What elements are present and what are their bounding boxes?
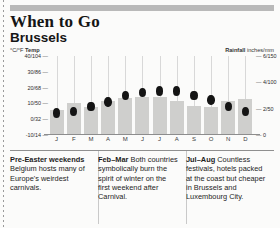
- month-label: D: [243, 136, 247, 142]
- temperature-marker: [173, 86, 180, 96]
- rainfall-bar: [135, 97, 149, 135]
- rainfall-tick-label: — 6/150: [256, 53, 276, 59]
- temperature-marker: [139, 88, 146, 98]
- month-label: J: [55, 136, 58, 142]
- temp-tick-label: 40/104 —: [8, 53, 48, 59]
- temp-tick-label: -10/14 —: [8, 132, 48, 138]
- rainfall-bar: [118, 98, 132, 135]
- article-page: When to Go Brussels °C/°F Temp Rainfall …: [0, 0, 280, 228]
- note-lead: Jul–Aug: [186, 155, 215, 164]
- month-label: M: [123, 136, 128, 142]
- month-label: A: [106, 136, 110, 142]
- margin-rule: [3, 0, 4, 228]
- temperature-marker: [190, 91, 197, 101]
- rainfall-label: Rainfall: [225, 47, 245, 53]
- note-block: Jul–Aug Countless festivals, hotels pack…: [186, 150, 274, 224]
- note-lead: Pre-Easter weekends: [10, 155, 84, 164]
- month-label: O: [209, 136, 214, 142]
- month-label: J: [158, 136, 161, 142]
- rainfall-bar: [153, 97, 167, 135]
- note-block: Feb–Mar Both countries symbolically burn…: [98, 150, 186, 224]
- top-banner-bar: [10, 5, 274, 11]
- rainfall-bar: [187, 106, 201, 135]
- month-label: M: [88, 136, 93, 142]
- temperature-marker: [87, 102, 94, 112]
- temperature-marker: [242, 107, 249, 117]
- month-label: F: [72, 136, 76, 142]
- chart-plot-area: [48, 56, 254, 135]
- temperature-marker: [156, 86, 163, 96]
- note-lead: Feb–Mar: [98, 155, 128, 164]
- temp-tick-label: 30/86 —: [8, 69, 48, 75]
- temperature-marker: [104, 97, 111, 107]
- month-label: N: [226, 136, 230, 142]
- month-label: J: [141, 136, 144, 142]
- rainfall-axis: — 6/150— 4/100— 2/50— 0: [256, 56, 280, 135]
- rainfall-tick-label: — 0: [256, 132, 266, 138]
- rainfall-bar: [84, 107, 98, 135]
- page-title: When to Go: [10, 13, 100, 30]
- rainfall-bar: [204, 107, 218, 135]
- month-label: A: [175, 136, 179, 142]
- temperature-marker: [122, 91, 129, 101]
- temperature-axis: 40/104 —30/86 —20/68 —10/50 —0/32 —-10/1…: [8, 56, 50, 135]
- temp-tick-label: 20/68 —: [8, 85, 48, 91]
- temperature-marker: [207, 95, 214, 105]
- rainfall-bar: [170, 101, 184, 135]
- chart-baseline: [44, 134, 260, 135]
- note-block: Pre-Easter weekends Belgium hosts many o…: [10, 150, 98, 224]
- climate-chart: [48, 56, 254, 135]
- temp-tick-label: 10/50 —: [8, 100, 48, 106]
- rainfall-tick-label: — 2/50: [256, 106, 273, 112]
- month-axis: JFMAMJJASOND: [48, 136, 254, 146]
- temp-tick-label: 0/32 —: [8, 116, 48, 122]
- temperature-marker: [53, 108, 60, 118]
- notes-row: Pre-Easter weekends Belgium hosts many o…: [10, 150, 274, 224]
- month-label: S: [192, 136, 196, 142]
- page-subtitle: Brussels: [10, 31, 67, 45]
- rainfall-tick-label: — 4/100: [256, 79, 276, 85]
- note-text: Belgium hosts many of Europe's weirdest …: [10, 164, 85, 192]
- rainfall-bar: [238, 99, 252, 135]
